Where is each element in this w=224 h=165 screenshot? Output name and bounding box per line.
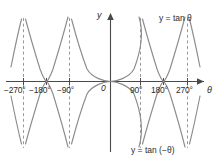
tick-label-plus-270: 270° <box>176 85 193 95</box>
tail-right-lower <box>190 96 201 144</box>
y-axis-label: y <box>97 10 102 20</box>
equation-label-tan-minus-theta: y = tan (−θ) <box>131 145 174 155</box>
y-axis-arrowhead <box>107 13 114 20</box>
graph-canvas <box>0 0 224 165</box>
tail-left-upper <box>11 19 22 67</box>
tick-label-minus-270: −270° <box>4 85 26 95</box>
tick-label-minus-180: −180° <box>29 85 51 95</box>
tick-label-minus-90: −90° <box>57 85 74 95</box>
x-axis-label: θ <box>207 85 212 95</box>
tail-right-upper <box>190 19 201 67</box>
tick-label-plus-90: 90° <box>130 85 142 95</box>
tail-left-lower <box>11 96 22 144</box>
x-axis-arrowhead <box>197 78 204 85</box>
tick-label-plus-180: 180° <box>151 85 168 95</box>
equation-label-tan-theta: y = tan θ <box>159 13 192 23</box>
tangent-graph-figure: y θ 0 −270° −180° −90° 90° 180° 270° y =… <box>0 0 224 165</box>
origin-label: 0 <box>101 83 106 93</box>
